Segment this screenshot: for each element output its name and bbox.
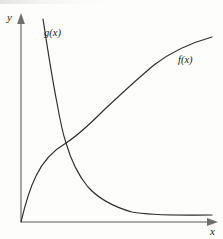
g-curve-label: g(x) [44,28,61,39]
g-curve [43,19,212,215]
f-curve-label: f(x) [178,55,193,66]
figure-container: y x g(x) f(x) [0,0,223,239]
plot-canvas [0,0,223,239]
y-axis-label: y [7,12,12,23]
curves-group [21,19,212,222]
x-axis-label: x [210,226,215,237]
y-axis-arrowhead [17,13,25,24]
